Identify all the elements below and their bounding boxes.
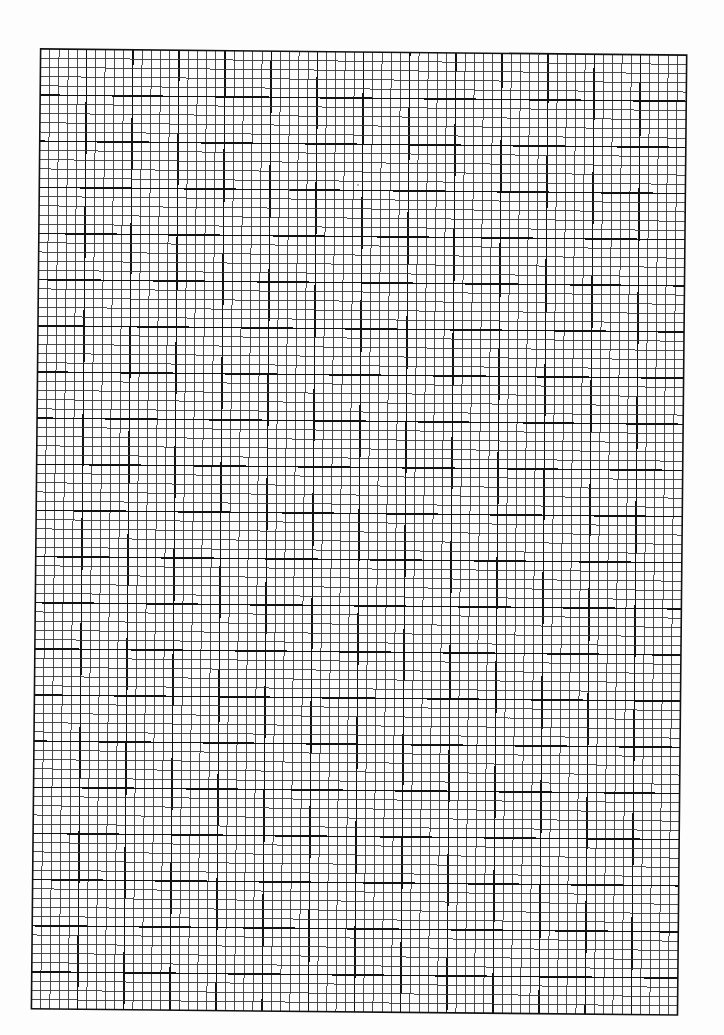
scanned-graph-paper-sheet	[0, 0, 724, 1035]
graph-paper-grid	[0, 0, 724, 1035]
scan-speck	[288, 189, 290, 191]
scan-speck	[357, 184, 359, 186]
grid-lines	[31, 49, 686, 1015]
